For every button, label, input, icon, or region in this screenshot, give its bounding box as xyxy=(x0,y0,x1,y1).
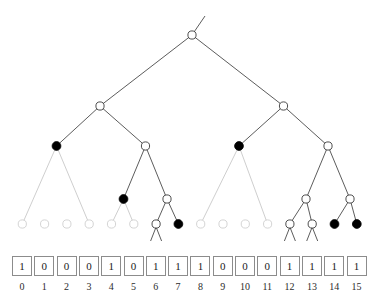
leaf-node-1[interactable] xyxy=(41,220,49,228)
tree-node-L2a[interactable] xyxy=(96,102,104,110)
bit-cell-4[interactable]: 1 xyxy=(101,256,121,276)
leaf-node-3[interactable] xyxy=(85,220,93,228)
bit-index-1: 1 xyxy=(34,281,54,292)
leaf-node-4[interactable] xyxy=(107,220,115,228)
tree-edge xyxy=(57,106,101,146)
tree-node-L4d[interactable] xyxy=(346,195,354,203)
tree-edge xyxy=(22,146,56,224)
bit-index-6: 6 xyxy=(146,281,166,292)
bitvector-strip: 10010203140516171809010011112113114115 xyxy=(0,252,385,307)
diagram-canvas: 10010203140516171809010011112113114115 xyxy=(0,0,385,307)
leaf-node-15[interactable] xyxy=(352,220,361,229)
tree-edge xyxy=(124,146,146,199)
bit-cell-3[interactable]: 0 xyxy=(79,256,99,276)
tree-node-L3d[interactable] xyxy=(324,142,332,150)
tree-edge xyxy=(201,146,239,224)
leaf-node-5[interactable] xyxy=(130,220,138,228)
edge-layer xyxy=(22,16,357,241)
leaf-node-6[interactable] xyxy=(152,220,160,228)
tree-edge xyxy=(100,106,146,146)
bit-index-12: 12 xyxy=(280,281,300,292)
tree-node-L3a[interactable] xyxy=(52,142,61,151)
leaf-node-13[interactable] xyxy=(308,220,316,228)
leaf-node-10[interactable] xyxy=(241,220,249,228)
leaf-node-9[interactable] xyxy=(219,220,227,228)
bit-cell-9[interactable]: 0 xyxy=(213,256,233,276)
leaf-node-8[interactable] xyxy=(197,220,205,228)
bit-index-11: 11 xyxy=(257,281,277,292)
leaf-leg xyxy=(307,227,313,241)
leaf-node-11[interactable] xyxy=(264,220,272,228)
leaf-leg xyxy=(312,227,318,241)
tree-edge xyxy=(328,146,350,199)
tree-edge xyxy=(284,106,329,146)
tree-edge xyxy=(306,146,328,199)
bit-index-5: 5 xyxy=(124,281,144,292)
bit-cell-8[interactable]: 1 xyxy=(190,256,210,276)
tree-node-L3b[interactable] xyxy=(141,142,149,150)
bit-index-14: 14 xyxy=(324,281,344,292)
tree-node-L3c[interactable] xyxy=(235,142,244,151)
leaf-node-2[interactable] xyxy=(63,220,71,228)
bit-cell-12[interactable]: 1 xyxy=(280,256,300,276)
bit-cell-0[interactable]: 1 xyxy=(12,256,32,276)
bit-cell-7[interactable]: 1 xyxy=(168,256,188,276)
bit-index-10: 10 xyxy=(235,281,255,292)
bit-cell-10[interactable]: 0 xyxy=(235,256,255,276)
bit-cell-6[interactable]: 1 xyxy=(146,256,166,276)
tree-edge xyxy=(146,146,168,199)
leaf-node-12[interactable] xyxy=(286,220,294,228)
bit-index-4: 4 xyxy=(101,281,121,292)
bit-index-0: 0 xyxy=(12,281,32,292)
tree-node-L4a[interactable] xyxy=(119,195,128,204)
tree-edge xyxy=(239,146,268,224)
bit-index-9: 9 xyxy=(213,281,233,292)
bit-index-15: 15 xyxy=(347,281,367,292)
leaf-leg xyxy=(284,227,290,241)
bit-index-13: 13 xyxy=(302,281,322,292)
bit-index-2: 2 xyxy=(57,281,77,292)
leaf-node-14[interactable] xyxy=(330,220,339,229)
leaf-node-7[interactable] xyxy=(174,220,183,229)
bit-cell-11[interactable]: 0 xyxy=(257,256,277,276)
tree-node-root[interactable] xyxy=(188,31,196,39)
bit-index-8: 8 xyxy=(190,281,210,292)
tree-edge xyxy=(239,106,284,146)
binary-tree-graphic xyxy=(0,0,385,250)
leaf-leg xyxy=(156,227,162,241)
tree-node-L4b[interactable] xyxy=(163,195,171,203)
tree-edge xyxy=(57,146,90,224)
tree-node-L2b[interactable] xyxy=(279,102,287,110)
bit-index-7: 7 xyxy=(168,281,188,292)
bit-cell-14[interactable]: 1 xyxy=(324,256,344,276)
bit-cell-2[interactable]: 0 xyxy=(57,256,77,276)
leaf-leg xyxy=(151,227,157,241)
bit-cell-15[interactable]: 1 xyxy=(347,256,367,276)
leaf-node-0[interactable] xyxy=(18,220,26,228)
tree-edge xyxy=(192,35,284,106)
tree-node-L4c[interactable] xyxy=(302,195,310,203)
leaf-leg xyxy=(290,227,296,241)
bit-cell-13[interactable]: 1 xyxy=(302,256,322,276)
bit-index-3: 3 xyxy=(79,281,99,292)
bit-cell-5[interactable]: 0 xyxy=(124,256,144,276)
tree-edge xyxy=(100,35,192,106)
bit-cell-1[interactable]: 0 xyxy=(34,256,54,276)
